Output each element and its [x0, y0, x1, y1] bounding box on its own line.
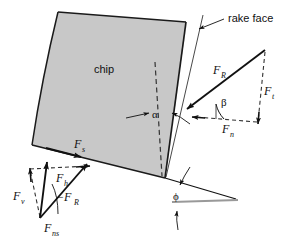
label-alpha: α [152, 108, 158, 120]
label-F-s-subscript: s [82, 145, 85, 154]
label-F-n-symbol: F [221, 122, 230, 136]
label-beta: β [221, 96, 227, 108]
diagram-canvas: chip rake face α β ϕ F R F t F n F s [0, 0, 284, 249]
label-F-s-symbol: F [73, 137, 82, 151]
label-F-h-symbol: F [55, 171, 64, 185]
vector-F-n-arrowhead [192, 117, 205, 118]
label-neg-F-R-subscript: R [73, 198, 79, 207]
label-chip: chip [94, 63, 114, 75]
label-F-R-upper-symbol: F [212, 63, 221, 77]
label-F-R-upper-subscript: R [220, 71, 226, 80]
vector-F-h-arrowhead [76, 166, 90, 167]
label-F-t-symbol: F [263, 84, 272, 98]
label-F-v-symbol: F [12, 189, 21, 203]
vector-F-v-arrowhead [30, 168, 31, 182]
orthogonal-cutting-diagram: chip rake face α β ϕ F R F t F n F s [0, 0, 284, 249]
label-F-v-subscript: v [21, 197, 25, 206]
label-F-ns-subscript: ns [52, 229, 59, 238]
label-F-n-subscript: n [230, 130, 234, 139]
label-F-ns-symbol: F [43, 221, 52, 235]
label-neg-F-R-symbol: −F [56, 190, 72, 204]
vector-F-t-arrowhead [258, 112, 259, 124]
label-rake-face: rake face [228, 12, 273, 24]
label-F-h-subscript: h [64, 179, 68, 188]
label-phi: ϕ [173, 190, 179, 202]
